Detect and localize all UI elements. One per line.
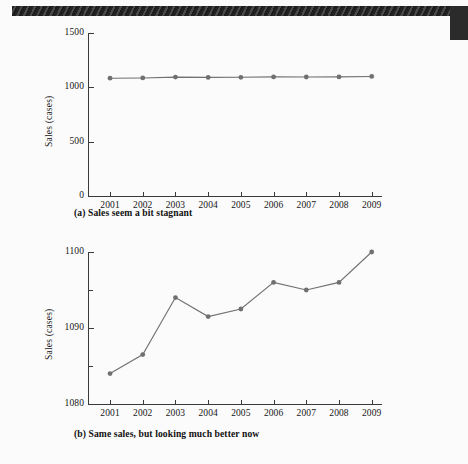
header-rule-decoration	[12, 6, 454, 16]
plot-area-b	[88, 252, 382, 404]
y-axis-title-b: Sales (cases)	[44, 309, 54, 360]
series-point	[238, 75, 243, 80]
y-tick-label: 1090	[44, 322, 84, 332]
series-point	[173, 295, 178, 300]
y-tick	[89, 404, 94, 405]
y-tick-label: 500	[44, 136, 84, 146]
sales-series	[88, 252, 382, 404]
series-point	[271, 280, 276, 285]
series-point	[271, 75, 276, 80]
series-point	[337, 75, 342, 80]
y-tick-label: 1080	[44, 398, 84, 408]
sales-series	[88, 33, 382, 196]
series-line	[110, 252, 372, 374]
series-point	[304, 75, 309, 80]
caption-b: (b) Same sales, but looking much better …	[74, 428, 259, 439]
y-tick	[89, 196, 94, 197]
series-point	[108, 371, 113, 376]
x-axis-line	[88, 404, 382, 405]
series-point	[369, 250, 374, 255]
series-point	[140, 76, 145, 81]
x-tick-label: 2009	[352, 200, 392, 210]
series-point	[206, 314, 211, 319]
series-point	[206, 75, 211, 80]
y-tick-label: 1000	[44, 81, 84, 91]
series-point	[304, 288, 309, 293]
chart-panel-a: Sales (cases) (a) Sales seem a bit stagn…	[0, 22, 468, 222]
y-tick-label: 1100	[44, 246, 84, 256]
chart-panel-b: Sales (cases) (b) Same sales, but lookin…	[0, 238, 468, 454]
series-point	[337, 280, 342, 285]
plot-area-a	[88, 33, 382, 196]
figure-page: Sales (cases) (a) Sales seem a bit stagn…	[0, 0, 468, 464]
series-point	[140, 352, 145, 357]
y-tick-label: 0	[44, 190, 84, 200]
series-point	[238, 307, 243, 312]
series-point	[108, 76, 113, 81]
x-tick-label: 2009	[352, 408, 392, 418]
y-tick-label: 1500	[44, 27, 84, 37]
x-axis-line	[88, 196, 382, 197]
series-point	[369, 74, 374, 79]
series-point	[173, 75, 178, 80]
